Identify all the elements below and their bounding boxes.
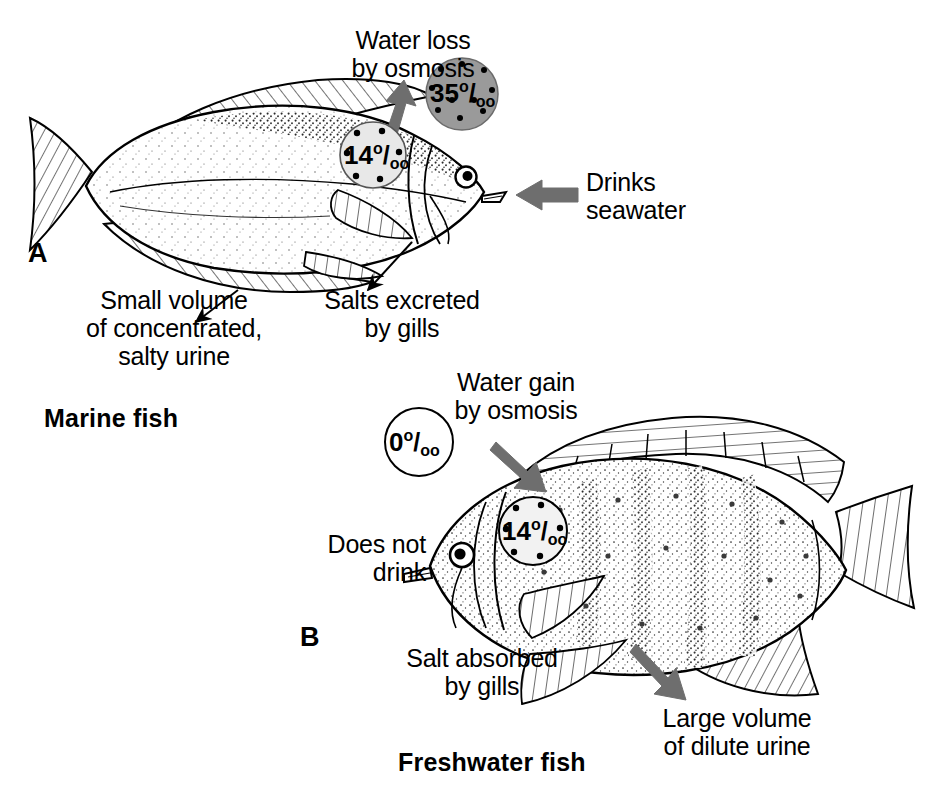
drinks-seawater-label: Drinks seawater <box>586 168 766 224</box>
fw-bodyfluid-value: 14 <box>502 516 531 546</box>
permil-sub: oo <box>548 531 568 548</box>
panel-letter-a: A <box>28 238 48 269</box>
seawater-concentration-label: 35o/oo <box>430 78 495 111</box>
large-volume-urine-label: Large volume of dilute urine <box>622 704 852 760</box>
water-gain-label: Water gain by osmosis <box>416 368 616 424</box>
fw-caudal-fin <box>836 486 914 608</box>
salt-absorbed-label: Salt absorbed by gills <box>372 644 592 700</box>
permil-sup: o <box>459 78 469 95</box>
water-gain-arrow <box>490 442 546 492</box>
freshwater-fish-pupil <box>454 548 465 559</box>
drinks-seawater-arrow <box>516 180 578 210</box>
permil-sup: o <box>403 427 413 444</box>
marine-fish-caption: Marine fish <box>44 404 178 433</box>
permil-sup: o <box>531 516 541 533</box>
freshwater-bodyfluid-concentration-label: 14o/oo <box>502 516 567 549</box>
freshwater-fish-caption: Freshwater fish <box>398 748 586 777</box>
permil-sup: o <box>373 140 383 157</box>
does-not-drink-label: Does not drink <box>296 530 426 586</box>
permil-sub: oo <box>390 155 410 172</box>
freshwater-concentration-label: 0o/oo <box>389 427 440 460</box>
salts-excreted-label: Salts excreted by gills <box>292 286 512 342</box>
permil-sub: oo <box>476 93 496 110</box>
permil-slash: / <box>541 517 548 545</box>
small-volume-urine-label: Small volume of concentrated, salty urin… <box>54 286 294 370</box>
permil-sub: oo <box>420 442 440 459</box>
water-loss-label: Water loss by osmosis <box>318 26 508 82</box>
permil-slash: / <box>469 79 476 107</box>
marine-caudal-fin <box>30 118 92 250</box>
marine-bodyfluid-concentration-label: 14o/oo <box>344 140 409 173</box>
osmoregulation-figure: Water loss by osmosis 35o/oo 14o/oo Drin… <box>0 0 935 786</box>
marine-bodyfluid-value: 14 <box>344 140 373 170</box>
seawater-value: 35 <box>430 78 459 108</box>
freshwater-value: 0 <box>389 427 403 457</box>
marine-fish-pupil <box>463 171 473 181</box>
panel-letter-b: B <box>300 622 320 653</box>
permil-slash: / <box>383 141 390 169</box>
